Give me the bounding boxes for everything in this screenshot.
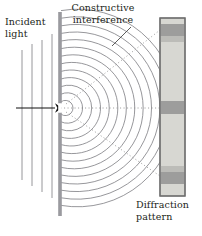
- slit-aperture: [58, 104, 62, 113]
- incident-wavefront-group: [22, 34, 52, 198]
- label-diffraction-pattern: Diffraction pattern: [136, 199, 189, 222]
- wave-arc: [61, 85, 92, 131]
- wave-arc: [61, 78, 101, 139]
- fringe-upper-faint: [161, 36, 185, 42]
- barrier-lower-segment: [58, 113, 62, 217]
- fringe-upper-order: [161, 24, 185, 36]
- diffraction-figure: Incident light Constructive interference…: [0, 0, 202, 236]
- label-constructive-interference: Constructive interference: [57, 2, 149, 25]
- fringe-central-maximum: [161, 101, 185, 114]
- fringe-lower-faint: [161, 166, 185, 172]
- detector-screen: [160, 18, 185, 196]
- label-incident-light: Incident light: [5, 16, 46, 39]
- incident-direction-arrow: [16, 103, 62, 113]
- barrier-with-slit: [58, 12, 62, 216]
- fringe-lower-order: [161, 172, 185, 184]
- barrier-upper-segment: [58, 12, 62, 104]
- lower-ray: [66, 112, 160, 176]
- upper-ray: [66, 30, 160, 104]
- constructive-leader-line: [112, 27, 131, 46]
